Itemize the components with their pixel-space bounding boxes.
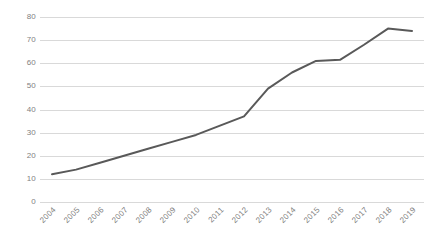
y-axis-tick-label: 80: [4, 13, 36, 21]
y-axis-tick-label: 70: [4, 36, 36, 44]
x-axis: 2004200520062007200820092010201120122013…: [40, 202, 424, 240]
y-axis-tick-label: 20: [4, 152, 36, 160]
line-chart: 01020304050607080 2004200520062007200820…: [0, 0, 428, 240]
y-axis-tick-label: 0: [4, 198, 36, 206]
plot-area: [40, 17, 424, 202]
series-line: [40, 17, 424, 202]
y-axis: 01020304050607080: [0, 0, 36, 240]
y-axis-tick-label: 60: [4, 59, 36, 67]
y-axis-tick-label: 50: [4, 82, 36, 90]
y-axis-tick-label: 30: [4, 129, 36, 137]
y-axis-tick-label: 10: [4, 175, 36, 183]
series-polyline: [52, 29, 412, 175]
y-axis-tick-label: 40: [4, 106, 36, 114]
